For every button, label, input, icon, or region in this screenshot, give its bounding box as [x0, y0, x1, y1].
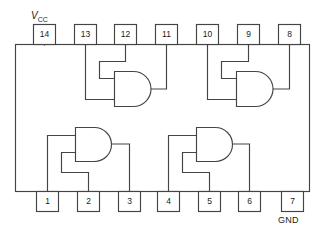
pin-label-10: 10: [203, 29, 213, 39]
wire-output-to-pin6: [234, 144, 250, 191]
pin-label-3: 3: [127, 196, 132, 206]
pin-label-2: 2: [86, 196, 91, 206]
and-gate-top-left: [115, 72, 152, 107]
and-gate-bottom-left: [76, 128, 112, 162]
pin-label-6: 6: [247, 196, 252, 206]
pin-label-14: 14: [40, 29, 50, 39]
ic-body-outline: [16, 45, 310, 192]
wire-output-to-pin8: [274, 45, 290, 89]
and-gate-bottom-right: [197, 128, 233, 162]
ic-pinout-diagram: 14 13 12 11 10 9 8 1 2 3 4 5: [0, 0, 324, 237]
vcc-label: VCC: [31, 10, 48, 23]
wire-output-to-pin3: [113, 144, 130, 191]
pin-label-9: 9: [246, 29, 251, 39]
pin-label-12: 12: [121, 29, 131, 39]
pin-label-4: 4: [166, 196, 171, 206]
gnd-label: GND: [278, 215, 299, 225]
vcc-label-subscript: CC: [38, 16, 48, 23]
pin-label-13: 13: [81, 29, 91, 39]
svg-text:VCC: VCC: [31, 10, 48, 23]
pin-label-8: 8: [287, 29, 292, 39]
pin-label-11: 11: [162, 29, 171, 39]
bottom-pin-boxes: 1 2 3 4 5 6 7: [37, 192, 304, 212]
pin-label-1: 1: [45, 196, 50, 206]
wire-output-to-pin11: [152, 45, 167, 89]
ic-diagram-canvas: 14 13 12 11 10 9 8 1 2 3 4 5: [0, 0, 324, 237]
and-gate-top-right: [237, 72, 274, 107]
pin-label-5: 5: [207, 196, 212, 206]
pin-label-7: 7: [290, 196, 295, 206]
top-pin-boxes: 14 13 12 11 10 9 8: [34, 25, 301, 45]
